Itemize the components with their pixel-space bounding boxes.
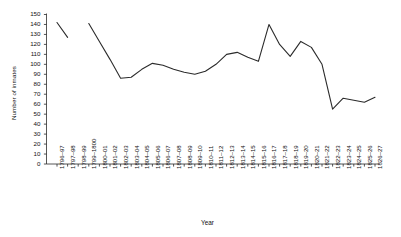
inmates-line-series — [57, 22, 375, 109]
line-chart-plot — [0, 0, 401, 237]
x-axis-title: Year — [0, 219, 401, 226]
chart-axes — [44, 14, 379, 167]
chart-screenshot: Number of inmates 0102030405060708090100… — [0, 0, 401, 237]
